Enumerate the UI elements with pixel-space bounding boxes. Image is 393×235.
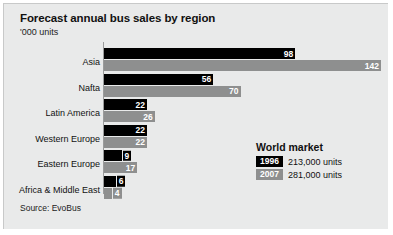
legend-value: 213,000 units [288,157,342,167]
bar-value-label: 70 [229,87,238,96]
bar-value-label: 22 [135,126,144,135]
chart-panel: Forecast annual bus sales by region '000… [3,3,388,229]
bar-1996: 56 [104,74,213,85]
bar-1996: 98 [104,48,295,59]
bar-1996: 9 [104,150,122,161]
source-note: Source: EvoBus [20,203,81,213]
bar-2007: 70 [104,86,241,97]
bar-value-label: 4 [113,188,122,199]
bar-value-label: 26 [143,112,152,121]
bar-value-label: 142 [365,61,379,70]
bar-value-label: 17 [126,163,135,172]
bar-value-label: 9 [123,150,132,161]
category-label: Asia [82,57,100,67]
category-label: Western Europe [35,134,100,144]
bar-value-label: 22 [135,138,144,147]
bar-1996: 22 [104,125,147,136]
legend-title: World market [256,141,342,153]
category-label: Nafta [78,83,100,93]
category-label: Eastern Europe [37,159,100,169]
bar-2007: 4 [104,188,112,199]
bar-2007: 142 [104,60,381,71]
legend-value: 281,000 units [288,170,342,180]
bar-2007: 26 [104,111,155,122]
bar-1996: 22 [104,99,147,110]
legend: World market 1996213,000 units2007281,00… [256,141,342,182]
plot-area: Asia98142Nafta5670Latin America2226Weste… [4,4,389,230]
bar-value-label: 98 [284,49,293,58]
bar-1996: 6 [104,176,116,187]
bar-value-label: 22 [135,100,144,109]
legend-swatch-2007: 2007 [256,169,283,180]
legend-swatch-1996: 1996 [256,156,283,167]
bar-value-label: 6 [117,176,126,187]
category-label: Latin America [45,108,100,118]
bar-value-label: 56 [202,75,211,84]
bar-2007: 22 [104,137,147,148]
legend-rows: 1996213,000 units2007281,000 units [256,156,342,180]
legend-row: 2007281,000 units [256,169,342,180]
bar-2007: 17 [104,162,137,173]
category-label: Africa & Middle East [19,185,100,195]
legend-row: 1996213,000 units [256,156,342,167]
